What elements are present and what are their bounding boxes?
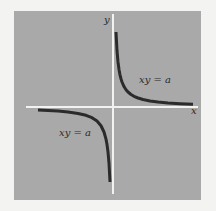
x-axis-label: x [191, 105, 197, 116]
curve-label-quadrant-3: xy = a [59, 127, 91, 138]
hyperbola-diagram: y x xy = a xy = a [0, 0, 216, 211]
plot-background [14, 11, 201, 200]
curve-label-quadrant-1: xy = a [139, 74, 171, 85]
y-axis-label: y [103, 14, 110, 25]
